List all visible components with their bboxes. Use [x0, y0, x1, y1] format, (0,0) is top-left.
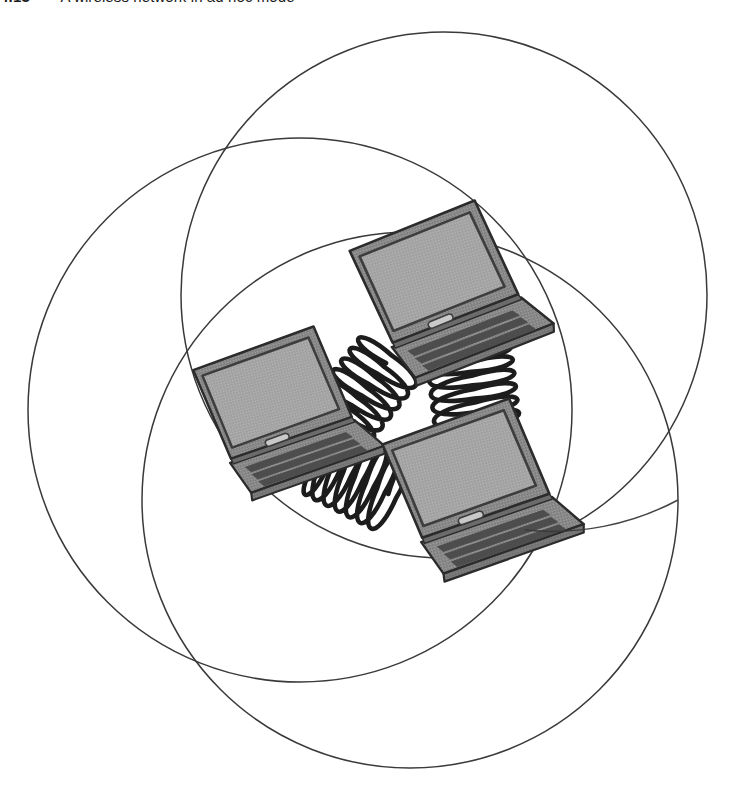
laptop-node-bottom	[379, 388, 589, 588]
wireless-adhoc-diagram	[0, 0, 733, 786]
figure-page: 4.13 A wireless network in ad hoc mode	[0, 0, 733, 786]
figure-canvas	[0, 0, 733, 786]
